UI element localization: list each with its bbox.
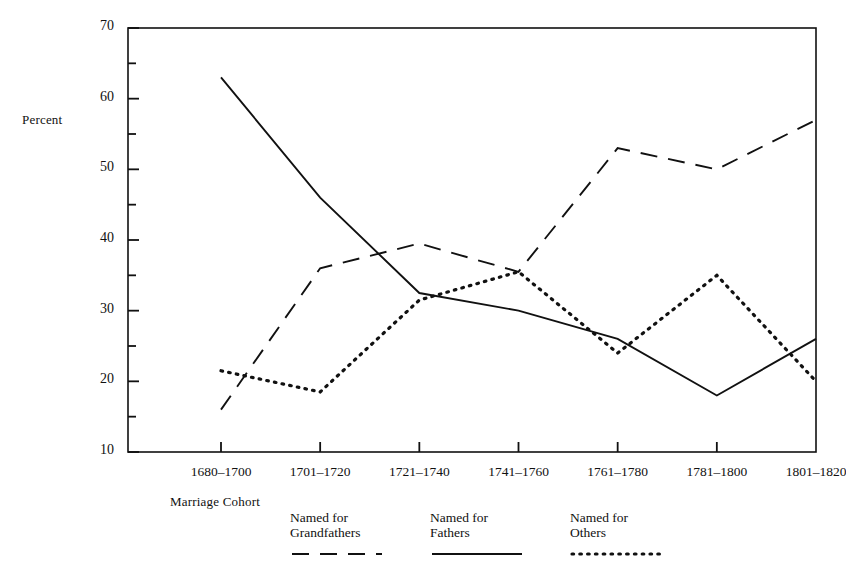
- x-tick-label: 1801–1820: [786, 464, 846, 480]
- legend-label-line1: Named for: [570, 510, 666, 525]
- x-tick-label: 1680–1700: [191, 464, 252, 480]
- legend-item-2: Named forOthers: [570, 510, 666, 559]
- series-line-1: [221, 77, 816, 395]
- y-axis-label: Percent: [22, 112, 62, 128]
- legend-swatch-dashed: [290, 549, 386, 559]
- legend-item-1: Named forFathers: [430, 510, 526, 559]
- y-tick-label: 40: [80, 230, 114, 246]
- legend-swatch-dotted: [570, 549, 666, 559]
- legend-label-line1: Named for: [290, 510, 386, 525]
- x-tick-label: 1741–1760: [488, 464, 549, 480]
- y-tick-label: 50: [80, 159, 114, 175]
- x-tick-label: 1721–1740: [389, 464, 450, 480]
- legend-label-line2: Others: [570, 525, 666, 540]
- x-tick-label: 1781–1800: [686, 464, 747, 480]
- y-axis-ticks: [128, 28, 139, 452]
- data-series-layer: [221, 77, 816, 409]
- y-tick-label: 70: [80, 18, 114, 34]
- y-tick-label: 30: [80, 301, 114, 317]
- y-tick-label: 60: [80, 89, 114, 105]
- x-axis-ticks: [221, 442, 717, 452]
- legend-item-0: Named forGrandfathers: [290, 510, 386, 559]
- y-tick-label: 10: [80, 442, 114, 458]
- x-tick-label: 1761–1780: [587, 464, 648, 480]
- y-tick-label: 20: [80, 371, 114, 387]
- plot-frame: [128, 28, 816, 452]
- legend-label-line1: Named for: [430, 510, 526, 525]
- series-line-0: [221, 120, 816, 410]
- series-line-2: [221, 272, 816, 392]
- legend-swatch-solid: [430, 549, 526, 559]
- x-tick-label: 1701–1720: [290, 464, 351, 480]
- x-axis-label: Marriage Cohort: [170, 494, 260, 510]
- legend-label-line2: Grandfathers: [290, 525, 386, 540]
- legend-label-line2: Fathers: [430, 525, 526, 540]
